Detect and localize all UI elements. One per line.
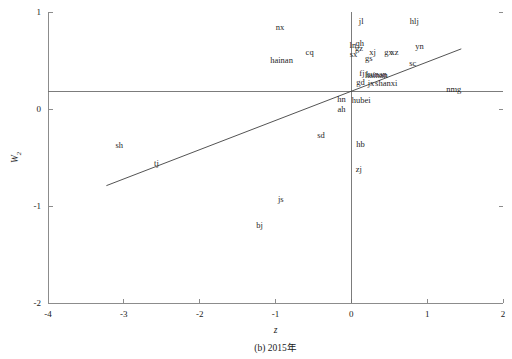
data-point-label-cq: cq <box>306 47 315 57</box>
data-point-label-sh: sh <box>116 140 124 150</box>
y-axis-tick-label: -1 <box>34 201 42 211</box>
scatter-plot-canvas: -4-3-2-101210-1-2nxjlhljqhlngzyncqsxxjgx… <box>0 0 512 359</box>
x-axis-tick-label: 2 <box>501 309 506 319</box>
x-axis-tick-label: -2 <box>196 309 204 319</box>
data-point-label-hlj: hlj <box>410 16 419 26</box>
data-point-label-jx: jx <box>367 78 375 88</box>
data-point-label-nmg: nmg <box>446 84 462 94</box>
figure-container: -4-3-2-101210-1-2nxjlhljqhlngzyncqsxxjgx… <box>0 0 512 359</box>
data-point-label-tj: tj <box>154 158 159 168</box>
data-point-label-hb: hb <box>356 139 365 149</box>
data-point-label-nx: nx <box>276 22 285 32</box>
data-point-label-sd: sd <box>317 130 325 140</box>
data-point-label-gs: gs <box>365 53 373 63</box>
data-point-label-hainan: hainan <box>270 55 293 65</box>
regression-line <box>106 49 461 186</box>
data-point-label-hn: hn <box>337 94 346 104</box>
data-point-label-shanxi: shanxi <box>375 78 398 88</box>
x-axis-tick-label: -1 <box>272 309 280 319</box>
y-axis-tick-label: 0 <box>37 104 42 114</box>
data-point-label-js: js <box>277 194 284 204</box>
x-axis-tick-label: -4 <box>44 309 52 319</box>
data-point-label-gd: gd <box>356 77 365 87</box>
svg-text:W2: W2 <box>10 151 22 163</box>
x-axis-tick-label: 0 <box>349 309 354 319</box>
data-point-label-xz: xz <box>391 47 399 57</box>
data-point-label-zj: zj <box>356 164 362 174</box>
data-point-label-hubei: hubei <box>352 95 372 105</box>
figure-caption: (b) 2015年 <box>254 342 296 354</box>
x-axis-title: z <box>273 325 278 335</box>
data-point-label-jl: jl <box>358 16 364 26</box>
data-point-label-ah: ah <box>337 104 346 114</box>
data-point-label-sx: sx <box>350 49 358 59</box>
x-axis-tick-label: 1 <box>425 309 430 319</box>
data-point-label-sc: sc <box>409 58 416 68</box>
y-axis-tick-label: 1 <box>37 7 42 17</box>
data-point-label-bj: bj <box>256 220 263 230</box>
y-axis-tick-label: -2 <box>34 298 42 308</box>
x-axis-tick-label: -3 <box>120 309 128 319</box>
data-point-label-yn: yn <box>415 41 424 51</box>
y-axis-title: W2 <box>10 151 22 163</box>
